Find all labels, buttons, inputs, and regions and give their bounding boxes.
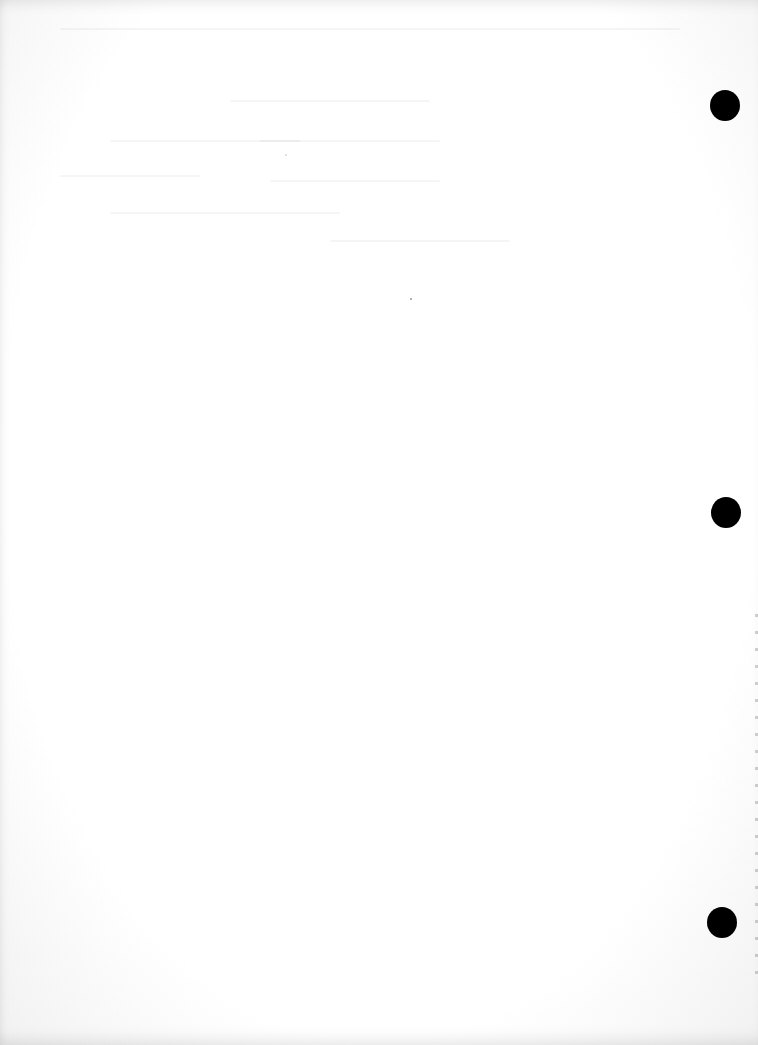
punch-hole-top [710, 90, 740, 121]
bleed-through-line [60, 175, 200, 177]
bleed-through-line [270, 180, 440, 182]
scan-speck [410, 298, 412, 300]
scan-speck [285, 154, 287, 156]
bleed-through-line [330, 240, 510, 242]
bleed-through-line [260, 140, 440, 142]
bleed-through-line [110, 212, 340, 214]
bleed-through-line [230, 100, 430, 102]
bleed-through-line [60, 28, 680, 30]
punch-hole-bottom [707, 907, 737, 938]
punch-hole-middle [711, 497, 741, 528]
scanned-page [0, 0, 758, 1045]
